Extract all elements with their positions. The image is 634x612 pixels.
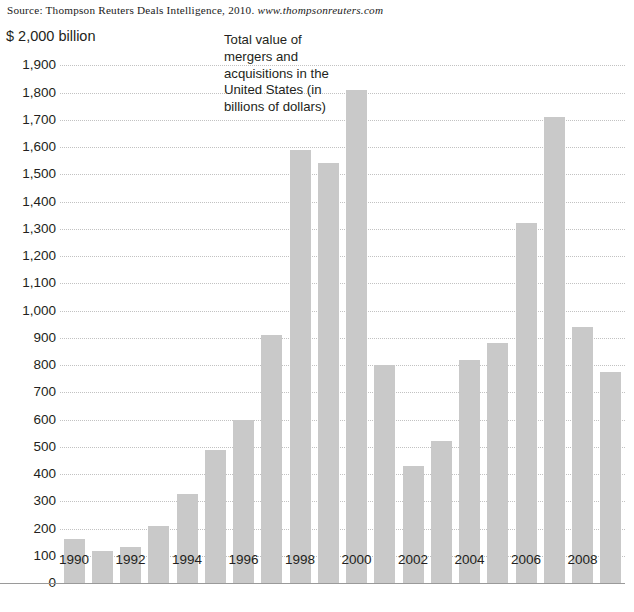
y-axis-tick-label: 200: [0, 522, 56, 536]
bar[interactable]: [516, 223, 537, 583]
gridline: [60, 229, 625, 230]
gridline: [60, 120, 625, 121]
y-axis-tick-label: 1,900: [0, 58, 56, 72]
y-axis-tick-label: 400: [0, 467, 56, 481]
y-axis-tick-label: 1,600: [0, 140, 56, 154]
bar[interactable]: [318, 163, 339, 583]
gridline: [60, 147, 625, 148]
y-axis-tick-label: 900: [0, 331, 56, 345]
gridline: [60, 529, 625, 530]
y-axis-tick-label: 1,500: [0, 167, 56, 181]
chart-annotation: Total value of mergers and acquisitions …: [224, 32, 348, 116]
gridline: [60, 338, 625, 339]
gridline: [60, 202, 625, 203]
gridline: [60, 256, 625, 257]
x-axis-tick-label: 1990: [44, 552, 104, 567]
bar[interactable]: [459, 360, 480, 583]
y-axis-tick-label: 1,200: [0, 249, 56, 263]
x-axis-tick-label: 2000: [327, 552, 387, 567]
y-axis-tick-label: 600: [0, 413, 56, 427]
y-axis-tick-label: 1,800: [0, 86, 56, 100]
gridline: [60, 283, 625, 284]
y-axis-tick-label: 500: [0, 440, 56, 454]
gridline: [60, 447, 625, 448]
gridline: [60, 474, 625, 475]
x-axis-tick-label: 2008: [553, 552, 613, 567]
y-axis-tick-label: 1,300: [0, 222, 56, 236]
bar[interactable]: [177, 494, 198, 583]
x-axis-tick-label: 1998: [270, 552, 330, 567]
gridline: [60, 174, 625, 175]
y-axis-tick-label: 800: [0, 358, 56, 372]
x-axis-line: [0, 583, 625, 584]
gridline: [60, 420, 625, 421]
bar[interactable]: [487, 343, 508, 583]
x-axis-tick-label: 2004: [440, 552, 500, 567]
bar[interactable]: [544, 117, 565, 583]
y-axis-tick-label: 1,000: [0, 304, 56, 318]
y-axis-tick-label: 700: [0, 385, 56, 399]
gridline: [60, 501, 625, 502]
x-axis-tick-label: 2002: [383, 552, 443, 567]
bar[interactable]: [261, 335, 282, 583]
x-axis-tick-label: 1992: [101, 552, 161, 567]
y-axis-tick-label: 1,400: [0, 195, 56, 209]
bar[interactable]: [374, 365, 395, 583]
plot-area: [60, 38, 625, 583]
gridline: [60, 365, 625, 366]
gridline: [60, 311, 625, 312]
y-axis-tick-label: 300: [0, 494, 56, 508]
x-axis-tick-label: 1994: [157, 552, 217, 567]
bar[interactable]: [290, 150, 311, 583]
bar[interactable]: [346, 90, 367, 583]
gridline: [60, 392, 625, 393]
bar[interactable]: [572, 327, 593, 583]
x-axis-tick-label: 1996: [214, 552, 274, 567]
y-axis-tick-label: 1,100: [0, 276, 56, 290]
x-axis-tick-label: 2006: [496, 552, 556, 567]
chart-container: $ 2,000 billion1,9001,8001,7001,6001,500…: [0, 0, 634, 612]
y-axis-tick-label: 1,700: [0, 113, 56, 127]
